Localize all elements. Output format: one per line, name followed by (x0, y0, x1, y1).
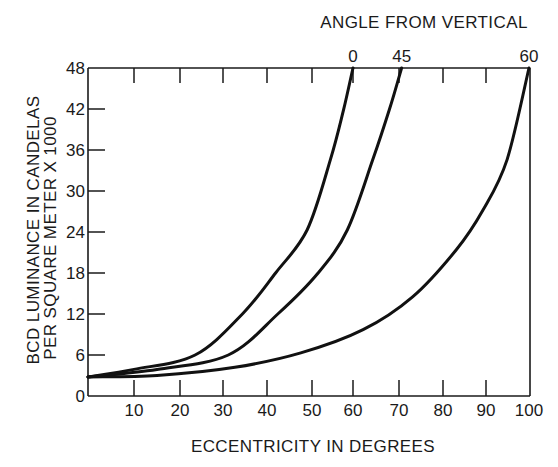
top-axis-ticks (134, 68, 486, 83)
curve-angle-60 (88, 68, 529, 377)
x-tick-label: 50 (303, 401, 322, 420)
x-axis-ticks: 102030405060708090100 (125, 380, 544, 420)
x-tick-label: 70 (390, 401, 409, 420)
x-tick-label: 30 (214, 401, 233, 420)
y-tick-label: 18 (66, 264, 85, 283)
curve-label-0: 0 (348, 47, 357, 66)
y-tick-label: 0 (76, 387, 85, 406)
y-axis-title-line2: PER SQUARE METER X 1000 (41, 116, 60, 360)
curve-label-45: 45 (392, 47, 411, 66)
x-tick-label: 90 (477, 401, 496, 420)
y-tick-label: 12 (66, 305, 85, 324)
plot-frame (88, 68, 530, 396)
curve-labels: 04560 (348, 47, 538, 66)
curve-label-60: 60 (520, 47, 539, 66)
x-tick-label: 60 (344, 401, 363, 420)
y-tick-label: 24 (66, 223, 85, 242)
y-tick-label: 42 (66, 100, 85, 119)
luminance-eccentricity-chart: BCD LUMINANCE IN CANDELAS PER SQUARE MET… (0, 0, 558, 467)
top-axis-title: ANGLE FROM VERTICAL (320, 13, 528, 32)
y-axis-ticks: 0612182430364248 (66, 59, 105, 406)
curves (88, 68, 529, 377)
x-tick-label: 10 (125, 401, 144, 420)
y-tick-label: 48 (66, 59, 85, 78)
x-tick-label: 80 (434, 401, 453, 420)
x-axis-title: ECCENTRICITY IN DEGREES (191, 437, 435, 456)
curve-angle-0 (88, 68, 353, 377)
x-tick-label: 20 (171, 401, 190, 420)
y-tick-label: 30 (66, 182, 85, 201)
curve-angle-45 (88, 68, 402, 377)
y-tick-label: 6 (76, 346, 85, 365)
x-tick-label: 40 (258, 401, 277, 420)
x-tick-label: 100 (515, 401, 543, 420)
y-tick-label: 36 (66, 141, 85, 160)
